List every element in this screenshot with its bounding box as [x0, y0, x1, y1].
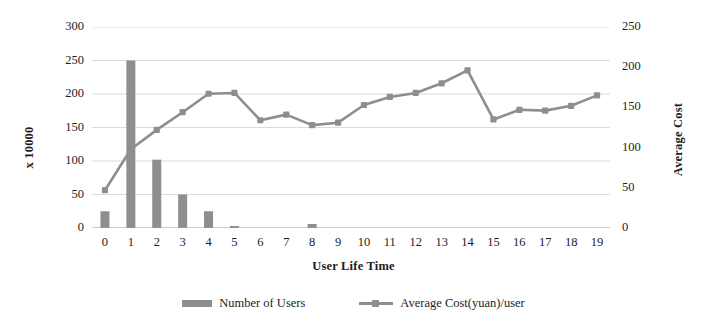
legend-item-number-of-users: Number of Users: [182, 296, 305, 311]
x-axis-title: User Life Time: [0, 259, 707, 274]
plot-area: [92, 27, 610, 228]
x-tick-17: 17: [532, 235, 558, 250]
x-tick-1: 1: [118, 235, 144, 250]
y-left-tick-250: 250: [40, 53, 84, 68]
line-point-19: [594, 92, 600, 98]
bar-swatch-icon: [182, 300, 212, 307]
legend-label-average-cost: Average Cost(yuan)/user: [400, 296, 524, 311]
line-point-9: [335, 120, 341, 126]
x-tick-5: 5: [221, 235, 247, 250]
line-point-3: [180, 109, 186, 115]
line-point-13: [439, 80, 445, 86]
x-tick-3: 3: [170, 235, 196, 250]
y-axis-right-title: Average Cost: [671, 95, 686, 185]
y-left-tick-150: 150: [40, 120, 84, 135]
line-point-8: [309, 122, 315, 128]
y-left-tick-300: 300: [40, 19, 84, 34]
line-point-17: [542, 108, 548, 114]
y-left-tick-50: 50: [40, 187, 84, 202]
chart-figure: x 10000 Average Cost User Life Time 0501…: [0, 0, 707, 333]
x-tick-6: 6: [247, 235, 273, 250]
y-left-tick-100: 100: [40, 153, 84, 168]
line-point-12: [413, 90, 419, 96]
x-tick-12: 12: [403, 235, 429, 250]
bar-2: [152, 160, 161, 228]
bar-4: [204, 211, 213, 228]
x-tick-15: 15: [480, 235, 506, 250]
line-point-6: [257, 117, 263, 123]
y-right-tick-50: 50: [622, 180, 666, 195]
line-point-14: [464, 67, 470, 73]
line-point-15: [490, 116, 496, 122]
x-tick-9: 9: [325, 235, 351, 250]
x-tick-8: 8: [299, 235, 325, 250]
y-right-tick-250: 250: [622, 19, 666, 34]
line-marker-icon: [359, 299, 393, 308]
bar-series: [100, 61, 316, 229]
x-tick-13: 13: [429, 235, 455, 250]
x-tick-11: 11: [377, 235, 403, 250]
x-tick-16: 16: [506, 235, 532, 250]
line-point-11: [387, 94, 393, 100]
y-left-tick-200: 200: [40, 86, 84, 101]
line-point-7: [283, 112, 289, 118]
x-tick-4: 4: [196, 235, 222, 250]
y-right-tick-150: 150: [622, 99, 666, 114]
x-tick-14: 14: [455, 235, 481, 250]
x-tick-10: 10: [351, 235, 377, 250]
line-point-5: [231, 90, 237, 96]
line-point-1: [128, 146, 134, 152]
chart-legend: Number of Users Average Cost(yuan)/user: [0, 296, 707, 311]
x-tick-2: 2: [144, 235, 170, 250]
line-series: [102, 67, 600, 193]
legend-label-number-of-users: Number of Users: [219, 296, 305, 311]
y-right-tick-200: 200: [622, 59, 666, 74]
x-tick-18: 18: [558, 235, 584, 250]
line-point-16: [516, 107, 522, 113]
bar-3: [178, 195, 187, 229]
legend-item-average-cost: Average Cost(yuan)/user: [359, 296, 524, 311]
x-tick-0: 0: [92, 235, 118, 250]
y-left-tick-0: 0: [40, 220, 84, 235]
line-point-0: [102, 187, 108, 193]
bar-8: [308, 224, 317, 228]
y-right-tick-100: 100: [622, 140, 666, 155]
line-point-10: [361, 102, 367, 108]
bar-1: [126, 61, 135, 229]
y-axis-left-title: x 10000: [22, 103, 37, 193]
line-point-4: [205, 91, 211, 97]
line-point-18: [568, 103, 574, 109]
line-point-2: [154, 127, 160, 133]
bar-0: [100, 211, 109, 228]
y-right-tick-0: 0: [622, 220, 666, 235]
x-tick-19: 19: [584, 235, 610, 250]
x-tick-7: 7: [273, 235, 299, 250]
plot-svg: [92, 27, 610, 228]
